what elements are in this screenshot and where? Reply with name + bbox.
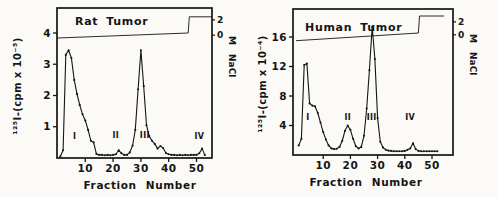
data-point [349,129,351,131]
x-tick-label: 20 [105,162,121,174]
x-axis-label-rat: Fraction Number [84,179,197,191]
x-tick-label: 50 [424,159,440,171]
data-point [157,148,159,150]
data-point [355,145,357,147]
data-point [377,117,379,119]
data-point [134,129,136,131]
data-point [79,104,81,106]
data-point [420,150,422,152]
data-point [73,79,75,81]
data-point [179,154,181,156]
data-point [423,150,425,152]
y-tick-label: 3 [43,58,51,70]
y-tick-label: 12 [271,60,287,72]
data-point [336,148,338,150]
y-tick-label: 4 [279,119,287,131]
peak-label-IV: IV [405,113,415,122]
x-tick-label: 40 [397,159,413,171]
data-point [426,150,428,152]
data-point [193,154,195,156]
nacl-tick-label: 0 [458,30,464,40]
data-point [120,152,122,154]
data-point [311,105,313,107]
data-point [358,147,360,149]
data-point [151,140,153,142]
data-point [309,102,311,104]
data-point [385,149,387,151]
data-point [363,135,365,137]
data-point [59,155,61,157]
data-point [76,93,78,95]
x-tick-label: 50 [189,162,205,174]
data-point [106,154,108,156]
data-point [95,153,97,155]
data-point [104,154,106,156]
x-axis-label-human: Fraction Number [310,176,423,188]
data-point [325,138,327,140]
x-tick-label: 40 [161,162,177,174]
y-tick-label: 16 [271,31,287,43]
peak-label-I: I [306,113,309,122]
data-point [401,150,403,152]
data-point [137,88,139,90]
data-point [109,154,111,156]
data-point [374,58,376,60]
data-point [436,150,438,152]
data-point [303,64,305,66]
data-point [434,150,436,152]
data-point [101,154,103,156]
rat-tumor-chart: 1020304050123420IIIIIIIV [43,8,223,174]
data-point [322,131,324,133]
y-tick-label: 4 [43,27,51,39]
peak-label-III: III [367,113,377,122]
x-tick-label: 10 [77,162,93,174]
data-point [344,130,346,132]
data-point [396,150,398,152]
data-point [176,154,178,156]
data-point [145,124,147,126]
data-point [382,147,384,149]
data-point [352,138,354,140]
data-point [162,147,164,149]
data-point [143,85,145,87]
y-tick-label: 1 [43,120,51,132]
data-point [140,49,142,51]
nacl-axis-label-human: M NaCl [468,34,478,75]
data-point [333,148,335,150]
data-point [159,145,161,147]
chart-title-human: Human Tumor [305,21,402,34]
data-point [390,150,392,152]
data-point [129,151,131,153]
data-point [431,150,433,152]
data-point [412,142,414,144]
x-tick-label: 10 [315,159,331,171]
data-point [118,149,120,151]
data-point [170,154,172,156]
nacl-tick-label: 0 [217,30,223,40]
x-tick-label: 20 [343,159,359,171]
data-point [115,153,117,155]
data-point [195,154,197,156]
data-point [371,26,373,28]
data-point [90,140,92,142]
data-point [173,154,175,156]
elution-profiles-svg: Rat Tumor Human Tumor Fraction Number Fr… [0,0,498,197]
data-point [154,143,156,145]
data-point [300,138,302,140]
data-point [398,150,400,152]
data-point [98,154,100,156]
data-point [404,150,406,152]
data-point [406,149,408,151]
nacl-axis-label-rat: M NaCl [227,36,237,77]
y-tick-label: 2 [43,89,51,101]
data-point [187,154,189,156]
data-point [182,154,184,156]
data-point [168,153,170,155]
data-point [68,49,70,51]
data-point [123,154,125,156]
data-point [338,146,340,148]
y-tick-label: 8 [279,90,287,102]
data-point [184,154,186,156]
data-point [87,129,89,131]
data-point [298,144,300,146]
